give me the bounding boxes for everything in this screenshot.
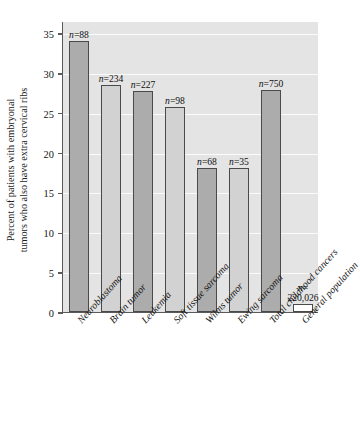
y-tick-20: [58, 153, 63, 154]
y-tick-30: [58, 73, 63, 74]
bar-soft-tissue-sarcoma: n=98: [165, 107, 185, 312]
y-tick-label-0: 0: [49, 308, 54, 319]
y-tick-label-10: 10: [44, 228, 54, 239]
y-axis-title-line-2: tumors who also have extra cervical ribs: [18, 88, 31, 253]
bar-annotation-2: n=227: [131, 80, 156, 90]
bar-annotation-5: n=35: [229, 157, 249, 167]
bar-annotation-3: n=98: [165, 96, 185, 106]
y-tick-35: [58, 33, 63, 34]
y-tick-label-30: 30: [44, 68, 54, 79]
y-tick-label-15: 15: [44, 188, 54, 199]
bar-neuroblastoma: n=88: [69, 41, 89, 312]
y-tick-10: [58, 233, 63, 234]
y-tick-15: [58, 193, 63, 194]
gridline-35: [63, 34, 318, 35]
y-tick-label-35: 35: [44, 28, 54, 39]
bar-annotation-1: n=234: [99, 74, 124, 84]
y-tick-25: [58, 113, 63, 114]
bar-annotation-4: n=68: [197, 157, 217, 167]
y-tick-label-25: 25: [44, 108, 54, 119]
bar-annotation-0: n=88: [69, 30, 89, 40]
plot-area: 05101520253035n=88n=234n=227n=98n=68n=35…: [62, 22, 318, 313]
y-axis-title: Percent of patients with embryonal tumor…: [0, 0, 36, 340]
bar-annotation-6: n=750: [259, 79, 284, 89]
y-tick-0: [58, 312, 63, 313]
y-tick-label-20: 20: [44, 148, 54, 159]
bar-leukemia: n=227: [133, 91, 153, 312]
y-tick-label-5: 5: [49, 268, 54, 279]
y-tick-5: [58, 272, 63, 273]
y-axis-title-line-1: Percent of patients with embryonal: [5, 88, 18, 253]
